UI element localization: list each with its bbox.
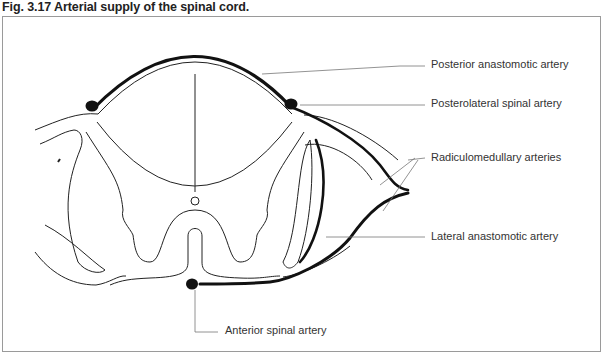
anterior-spinal-artery-node [186, 279, 198, 290]
label-radiculomedullary-arteries: Radiculomedullary arteries [431, 151, 561, 163]
arteries [93, 56, 408, 284]
left-dorsal-root-upper [35, 114, 98, 130]
spinal-cord-outline [35, 62, 398, 285]
label-anterior-spinal-artery: Anterior spinal artery [225, 324, 327, 336]
label-lateral-anastomotic-artery: Lateral anastomotic artery [431, 230, 558, 242]
right-posterolateral-spinal-artery-node [285, 99, 298, 110]
left-ventral-root [35, 252, 126, 285]
grey-matter-left [86, 132, 195, 262]
anterior-fissure-left [110, 236, 188, 285]
anterior-fissure-right [188, 229, 280, 279]
posterolateral-radicular-path [291, 107, 408, 190]
anterior-radicular-path [200, 193, 408, 284]
right-ventral-root-lower [283, 246, 350, 277]
left-root-detail [58, 159, 60, 162]
leader-anterior-spinal [195, 290, 218, 332]
left-dorsal-root-lower [40, 130, 105, 272]
grey-matter-right [195, 132, 304, 262]
artery-nodes [86, 99, 298, 290]
leader-radiculomedullary [380, 158, 425, 211]
central-canal [191, 197, 199, 205]
posterior-anastomotic-artery-path [93, 56, 291, 109]
leader-posterior-anastomotic [262, 66, 425, 74]
spinal-cord-diagram [0, 0, 606, 356]
right-dorsal-root-inner [305, 144, 372, 180]
label-posterior-anastomotic-artery: Posterior anastomotic artery [431, 58, 569, 70]
label-posterolateral-spinal-artery: Posterolateral spinal artery [431, 97, 562, 109]
left-posterolateral-spinal-artery-node [86, 101, 99, 112]
